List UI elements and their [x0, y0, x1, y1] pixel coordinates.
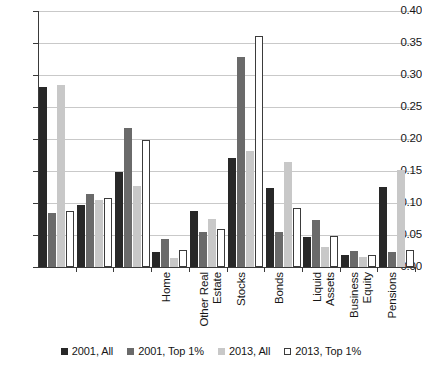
bar-group [151, 11, 189, 267]
bar [66, 211, 74, 267]
bar [330, 236, 338, 267]
bar [95, 200, 103, 267]
x-axis-label: Home [160, 272, 173, 366]
bar-group [302, 11, 340, 267]
x-axis-tick-mark [189, 267, 190, 272]
x-axis-tick-mark [302, 267, 303, 272]
bar-group [377, 11, 415, 267]
bar [266, 188, 274, 267]
bar [255, 36, 263, 267]
x-axis-tick-mark [377, 267, 378, 272]
bar [48, 213, 56, 267]
bar-group [264, 11, 302, 267]
legend-item[interactable]: 2001, All [61, 345, 113, 357]
legend-swatch [127, 348, 134, 355]
bar [179, 250, 187, 267]
x-axis-label: Other Real Estate [198, 272, 223, 366]
bar [170, 258, 178, 267]
bar [246, 151, 254, 267]
x-axis-label: Pensions [386, 272, 399, 366]
x-axis-tick-mark [340, 267, 341, 272]
bar [199, 232, 207, 267]
bar [86, 194, 94, 267]
bar [115, 172, 123, 267]
bar [39, 87, 47, 267]
bar [124, 128, 132, 267]
bar [152, 252, 160, 267]
x-axis-label: Business Equity [348, 272, 373, 366]
x-axis-label: Stocks [235, 272, 248, 366]
bar [275, 232, 283, 267]
x-axis-tick-mark [113, 267, 114, 272]
bar [350, 251, 358, 267]
bar-group [38, 11, 76, 267]
bar [77, 205, 85, 267]
x-axis-tick-mark [264, 267, 265, 272]
bar-group [227, 11, 265, 267]
bar [368, 255, 376, 267]
bar [133, 186, 141, 267]
bar [406, 250, 414, 267]
bar-group [340, 11, 378, 267]
bar-group [113, 11, 151, 267]
bar-group [76, 11, 114, 267]
bar [303, 237, 311, 267]
bar [388, 252, 396, 267]
x-axis-tick-mark [76, 267, 77, 272]
bar [104, 198, 112, 267]
bar [142, 140, 150, 267]
bar [379, 187, 387, 267]
bar [217, 229, 225, 267]
bar [341, 255, 349, 267]
bar [397, 170, 405, 267]
plot-area [38, 11, 415, 267]
bar-chart: 0.000.050.100.150.200.250.300.350.40 200… [0, 0, 422, 366]
bar [359, 257, 367, 267]
bar [190, 211, 198, 267]
x-axis-tick-mark [227, 267, 228, 272]
bar [321, 247, 329, 267]
bar [161, 239, 169, 267]
bar [208, 219, 216, 267]
bar [312, 220, 320, 267]
x-axis-tick-mark [151, 267, 152, 272]
x-axis-label: Bonds [273, 272, 286, 366]
bar-group [189, 11, 227, 267]
legend-swatch [61, 348, 68, 355]
x-axis-tick-mark [415, 267, 416, 272]
bar [57, 85, 65, 267]
x-axis-label: Liquid Assets [311, 272, 336, 366]
legend-label: 2001, All [72, 345, 113, 357]
bar [237, 57, 245, 267]
bar [293, 208, 301, 267]
bar [228, 158, 236, 267]
bar [284, 162, 292, 267]
